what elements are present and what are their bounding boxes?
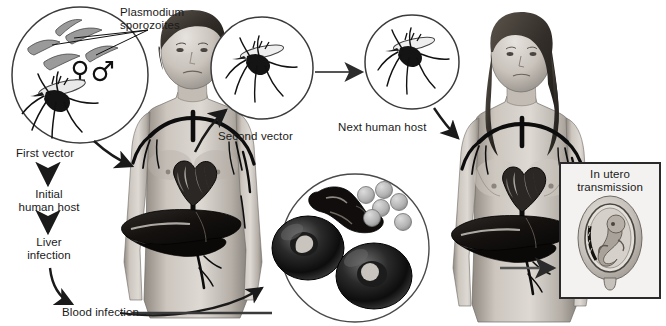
arrow-first-vector-to-host — [94, 141, 132, 166]
red-blood-cell-icon — [272, 216, 344, 280]
red-blood-cell-icon — [336, 243, 412, 309]
second-vector-circle — [211, 17, 313, 119]
label-first-vector: First vector — [16, 147, 74, 160]
label-initial-human-host: Initial human host — [4, 188, 94, 214]
arrow-next-vector-to-woman — [434, 108, 458, 138]
next-host-circle — [365, 15, 459, 109]
label-blood-infection: Blood infection — [62, 306, 139, 319]
blood-cells-circle — [272, 174, 429, 322]
label-second-vector: Second vector — [218, 130, 293, 143]
diagram-canvas — [0, 0, 666, 326]
arrow-liver-to-blood — [50, 268, 72, 304]
label-plasmodium-sporozoites: Plasmodium sporozoites — [120, 6, 184, 32]
label-in-utero-transmission: In utero transmission — [566, 168, 654, 194]
label-liver-infection: Liver infection — [8, 236, 90, 262]
malaria-cycle-diagram: Plasmodium sporozoites First vector Init… — [0, 0, 666, 326]
label-next-human-host: Next human host — [338, 121, 426, 134]
